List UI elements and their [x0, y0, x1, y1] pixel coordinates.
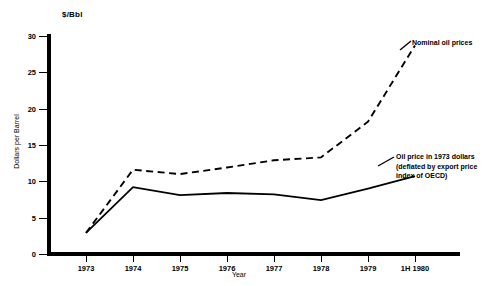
leader-line-nominal [400, 41, 411, 50]
x-axis-title: Year [0, 271, 498, 278]
annotation-nominal-line-1: Nominal oil prices [412, 38, 472, 48]
annotation-real-line-3: index of OECD) [396, 171, 477, 181]
series-line-nominal [86, 45, 415, 233]
leader-line-real [378, 157, 394, 166]
series-line-real [86, 176, 415, 233]
annotation-nominal-oil-prices: Nominal oil prices [412, 38, 472, 48]
annotation-real-line-1: Oil price in 1973 dollars [396, 152, 477, 162]
annotation-real-line-2: (deflated by export price [396, 162, 477, 172]
annotation-real-oil-price: Oil price in 1973 dollars (deflated by e… [396, 152, 477, 181]
oil-price-chart: $/Bbl Dollars per Barrel 0 5 10 15 20 25… [0, 0, 498, 286]
x-axis-title-text: Year [232, 271, 246, 278]
